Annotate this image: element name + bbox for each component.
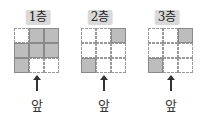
empty-cell xyxy=(14,28,29,43)
empty-cell xyxy=(96,43,111,58)
empty-cell xyxy=(178,58,193,73)
filled-cell xyxy=(44,28,59,43)
empty-cell xyxy=(178,43,193,58)
empty-cell xyxy=(148,28,163,43)
filled-cell xyxy=(29,28,44,43)
floor-grid xyxy=(81,28,127,74)
empty-cell xyxy=(96,28,111,43)
filled-cell xyxy=(14,43,29,58)
filled-cell xyxy=(111,28,126,43)
filled-cell xyxy=(14,58,29,73)
floor-1-panel: 1층 앞 xyxy=(0,0,67,119)
empty-cell xyxy=(29,58,44,73)
arrow-up-icon xyxy=(103,79,105,91)
filled-cell xyxy=(29,43,44,58)
front-label: 앞 xyxy=(31,95,43,114)
arrow-up-icon xyxy=(36,79,38,91)
empty-cell xyxy=(96,58,111,73)
filled-cell xyxy=(44,43,59,58)
empty-cell xyxy=(163,58,178,73)
filled-cell xyxy=(178,28,193,43)
filled-cell xyxy=(81,58,96,73)
empty-cell xyxy=(163,43,178,58)
floor-2-panel: 2층 앞 xyxy=(67,0,134,119)
floor-label: 3층 xyxy=(155,10,180,25)
floor-label: 2층 xyxy=(88,10,113,25)
filled-cell xyxy=(148,58,163,73)
floor-3-panel: 3층 앞 xyxy=(134,0,201,119)
front-label: 앞 xyxy=(165,95,177,114)
front-label: 앞 xyxy=(98,95,110,114)
floor-grid xyxy=(14,28,60,74)
empty-cell xyxy=(148,43,163,58)
floor-label: 1층 xyxy=(26,10,51,25)
floor-grid xyxy=(148,28,194,74)
empty-cell xyxy=(111,58,126,73)
empty-cell xyxy=(163,28,178,43)
arrow-up-icon xyxy=(170,79,172,91)
empty-cell xyxy=(111,43,126,58)
empty-cell xyxy=(44,58,59,73)
empty-cell xyxy=(81,43,96,58)
empty-cell xyxy=(81,28,96,43)
